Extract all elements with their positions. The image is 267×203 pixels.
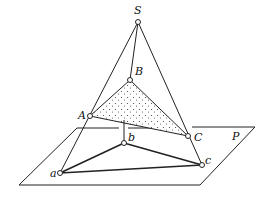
diagram-canvas: S B A C b a c P bbox=[0, 0, 267, 203]
label-a-upper: A bbox=[77, 109, 86, 122]
label-c-upper: C bbox=[194, 131, 203, 144]
label-plane-p: P bbox=[231, 130, 240, 143]
label-b-lower: b bbox=[128, 131, 135, 144]
label-a-lower: a bbox=[50, 167, 57, 180]
label-s: S bbox=[134, 4, 142, 17]
projection-diagram: S B A C b a c P bbox=[0, 0, 267, 203]
point-c-lower bbox=[200, 163, 205, 168]
point-a-upper bbox=[88, 114, 93, 119]
point-s bbox=[136, 20, 141, 25]
label-b-upper: B bbox=[134, 65, 143, 78]
point-c-upper bbox=[186, 134, 191, 139]
point-b-lower bbox=[122, 141, 127, 146]
triangle-abc-projection bbox=[60, 143, 202, 173]
point-b-upper bbox=[128, 78, 133, 83]
label-c-lower: c bbox=[205, 154, 211, 167]
point-a-lower bbox=[58, 171, 63, 176]
